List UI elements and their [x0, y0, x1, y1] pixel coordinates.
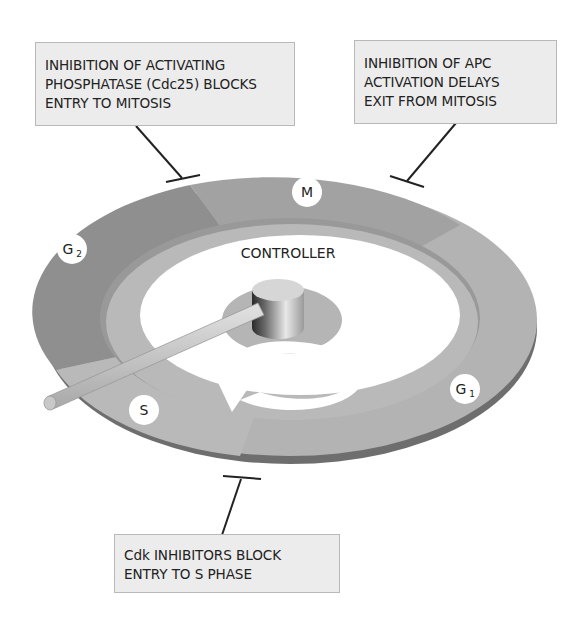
inhibition-bar-cdc25	[136, 126, 200, 182]
svg-text:2: 2	[76, 249, 82, 259]
annotation-line: ACTIVATION DELAYS	[364, 73, 548, 92]
annotation-line: Cdk INHIBITORS BLOCK	[124, 546, 331, 565]
phase-badge-g1: G 1	[450, 374, 480, 404]
svg-text:G: G	[63, 241, 74, 257]
svg-text:M: M	[301, 184, 313, 200]
annotation-cdc25: INHIBITION OF ACTIVATING PHOSPHATASE (Cd…	[35, 42, 295, 126]
svg-text:1: 1	[469, 389, 475, 399]
phase-badge-g2: G 2	[57, 234, 87, 264]
inhibition-bar-cdk-inhibitors	[222, 476, 261, 535]
annotation-cdk-inhibitors: Cdk INHIBITORS BLOCK ENTRY TO S PHASE	[114, 534, 340, 593]
annotation-line: INHIBITION OF APC	[364, 54, 548, 73]
svg-text:S: S	[140, 402, 149, 418]
annotation-line: EXIT FROM MITOSIS	[364, 92, 548, 111]
annotation-line: INHIBITION OF ACTIVATING	[45, 56, 286, 75]
controller-cylinder-top	[252, 279, 304, 301]
annotation-line: ENTRY TO MITOSIS	[45, 94, 286, 113]
controller-arm-tip	[44, 396, 56, 410]
annotation-line: ENTRY TO S PHASE	[124, 565, 331, 584]
annotation-line: PHOSPHATASE (Cdc25) BLOCKS	[45, 75, 286, 94]
annotation-apc: INHIBITION OF APC ACTIVATION DELAYS EXIT…	[354, 40, 557, 124]
controller-label: CONTROLLER	[241, 245, 336, 261]
controller-cylinder-bottom	[252, 317, 304, 339]
phase-badge-s: S	[129, 395, 159, 425]
phase-badge-m: M	[292, 177, 322, 207]
inhibition-bar-apc	[390, 123, 456, 187]
svg-text:G: G	[456, 381, 467, 397]
